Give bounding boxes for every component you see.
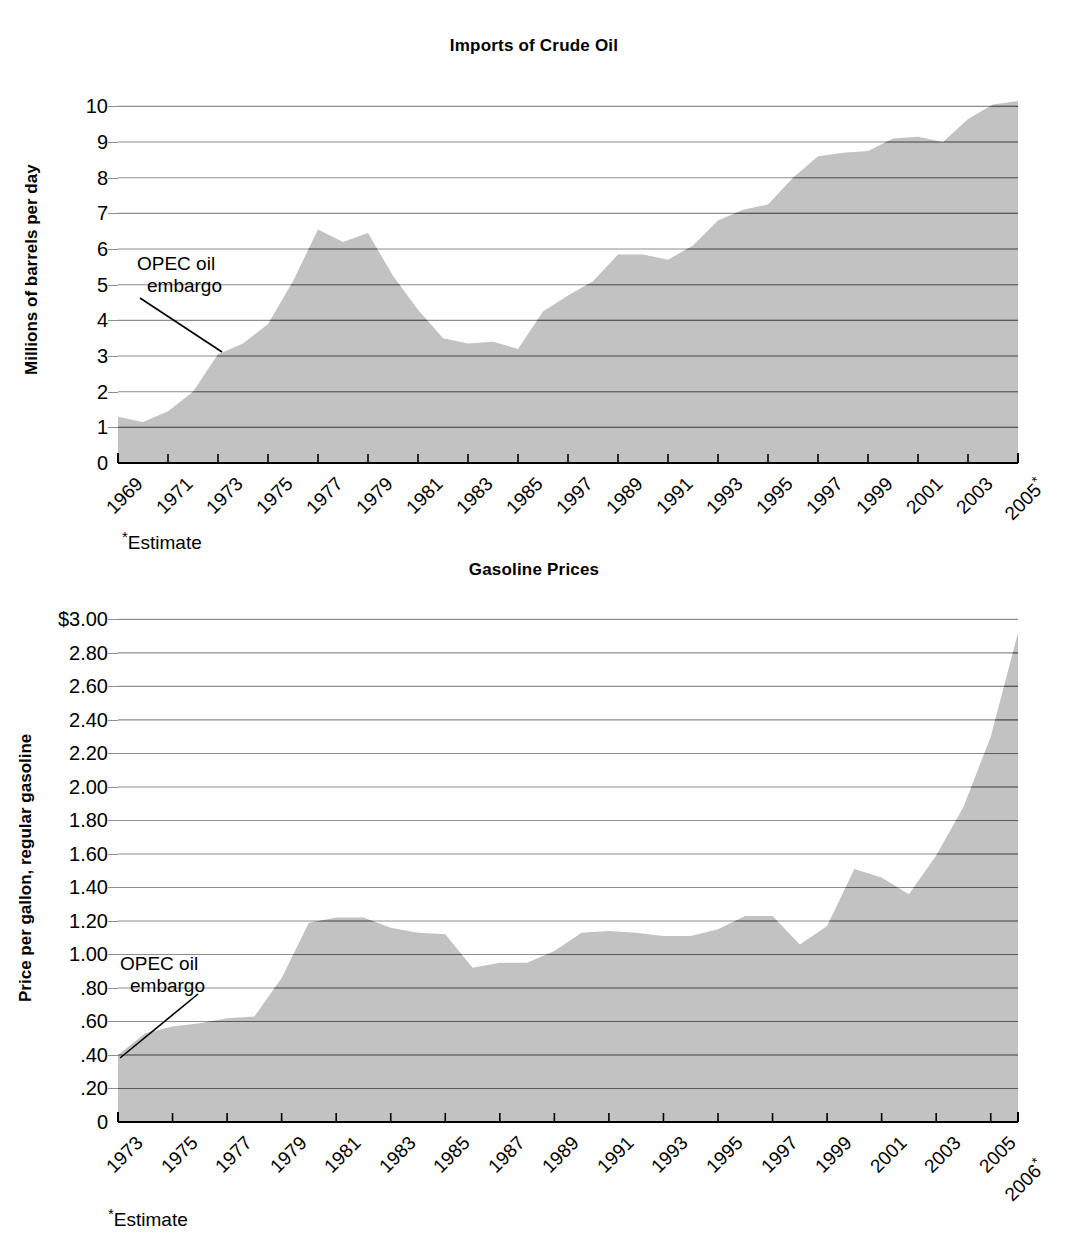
chart1-axis: [110, 80, 1028, 480]
y-tick-label: $3.00: [58, 608, 108, 631]
y-tick-label: 10: [86, 95, 108, 118]
y-tick-label: 2.20: [69, 742, 108, 765]
y-tick-label: 1: [97, 416, 108, 439]
y-tick-label: 1.40: [69, 876, 108, 899]
y-tick-label: 4: [97, 309, 108, 332]
y-tick-label: 3: [97, 345, 108, 368]
y-tick-label: 1.60: [69, 842, 108, 865]
chart2-annotation-line1: OPEC oil: [120, 953, 198, 974]
chart2-annotation-leader-line: [112, 988, 222, 1063]
chart2-title: Gasoline Prices: [0, 560, 1068, 580]
chart2-y-axis-label: Price per gallon, regular gasoline: [16, 668, 36, 1068]
chart1-y-axis-label: Millions of barrels per day: [22, 120, 42, 420]
y-tick-label: 1.80: [69, 809, 108, 832]
y-tick-label: 0: [97, 452, 108, 475]
y-tick-label: .20: [80, 1077, 108, 1100]
chart2-footnote-text: Estimate: [114, 1209, 188, 1230]
y-tick-label: .80: [80, 976, 108, 999]
y-tick-label: 1.00: [69, 943, 108, 966]
y-tick-label: 0: [97, 1111, 108, 1134]
chart2-axis: [110, 600, 1028, 1140]
x-tick-label: 2005*: [998, 473, 1050, 525]
y-tick-label: 5: [97, 273, 108, 296]
y-tick-label: 1.20: [69, 909, 108, 932]
chart1-title: Imports of Crude Oil: [0, 36, 1068, 56]
y-tick-label: 8: [97, 166, 108, 189]
y-tick-label: 9: [97, 131, 108, 154]
chart2-footnote: *Estimate: [108, 1205, 188, 1231]
y-tick-label: 2.40: [69, 708, 108, 731]
y-tick-label: 7: [97, 202, 108, 225]
y-tick-label: .60: [80, 1010, 108, 1033]
y-tick-label: 2.80: [69, 641, 108, 664]
chart1-annotation-line1: OPEC oil: [137, 253, 215, 274]
chart-gasoline-prices: Gasoline Prices Price per gallon, regula…: [0, 548, 1068, 1257]
y-tick-label: 2.60: [69, 675, 108, 698]
y-tick-label: 2: [97, 380, 108, 403]
chart-imports-of-crude-oil: Imports of Crude Oil Millions of barrels…: [0, 0, 1068, 570]
y-tick-label: .40: [80, 1043, 108, 1066]
y-tick-label: 6: [97, 238, 108, 261]
y-tick-label: 2.00: [69, 775, 108, 798]
chart1-annotation-leader-line: [130, 290, 250, 360]
